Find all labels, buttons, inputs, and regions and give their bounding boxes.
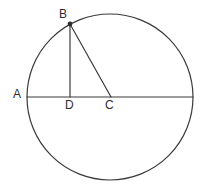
- point-label-b: B: [59, 8, 67, 20]
- point-marker-b: [68, 22, 73, 27]
- geometry-canvas: [0, 0, 204, 188]
- point-label-a: A: [13, 88, 21, 100]
- geometry-figure: A B D C: [0, 0, 204, 188]
- segment-bc: [70, 24, 111, 97]
- point-label-c: C: [105, 99, 114, 111]
- point-label-d: D: [65, 99, 74, 111]
